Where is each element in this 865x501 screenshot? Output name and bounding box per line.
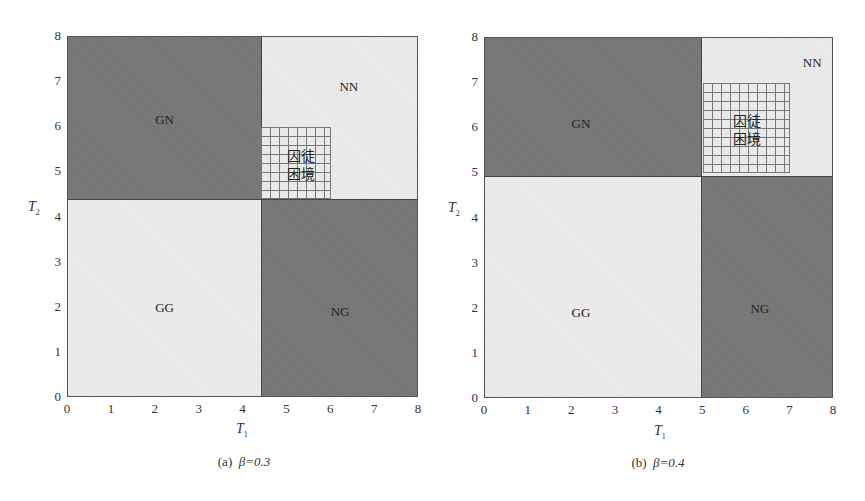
- plot-area-b: 囚徒困境GNNNGGNG: [484, 37, 833, 398]
- caption-b: (b) β=0.4: [631, 455, 684, 471]
- prisoners-dilemma-label: 囚徒困境: [731, 113, 763, 149]
- region-label-nn: NN: [803, 55, 822, 71]
- y-tick-label: 5: [472, 164, 479, 180]
- x-tick-label: 8: [830, 402, 837, 418]
- region-label-gn: GN: [572, 116, 591, 132]
- y-tick-label: 6: [472, 119, 479, 135]
- region-gg: [485, 176, 701, 398]
- y-axis-title-b: T2: [448, 200, 460, 218]
- x-tick-label: 6: [743, 402, 750, 418]
- x-tick-label: 0: [481, 402, 488, 418]
- x-tick-label: 1: [524, 402, 531, 418]
- region-label-gg: GG: [572, 305, 591, 321]
- region-label-ng: NG: [750, 301, 769, 317]
- x-axis-title-b: T1: [654, 423, 666, 441]
- y-tick-label: 0: [472, 390, 479, 406]
- y-tick-label: 3: [472, 255, 479, 271]
- x-tick-label: 2: [568, 402, 575, 418]
- x-tick-label: 3: [612, 402, 619, 418]
- x-tick-label: 4: [655, 402, 662, 418]
- y-tick-label: 8: [472, 29, 479, 45]
- y-tick-label: 1: [472, 345, 479, 361]
- y-tick-label: 2: [472, 300, 479, 316]
- divider-horizontal: [485, 176, 833, 177]
- region-gn: [485, 38, 701, 176]
- region-ng: [701, 176, 833, 398]
- divider-vertical: [701, 38, 702, 398]
- chart-b: 囚徒困境GNNNGGNG 012345678012345678 T2 T1 (b…: [0, 0, 865, 501]
- y-tick-label: 7: [472, 74, 479, 90]
- x-tick-label: 5: [699, 402, 706, 418]
- y-tick-label: 4: [472, 210, 479, 226]
- x-tick-label: 7: [786, 402, 793, 418]
